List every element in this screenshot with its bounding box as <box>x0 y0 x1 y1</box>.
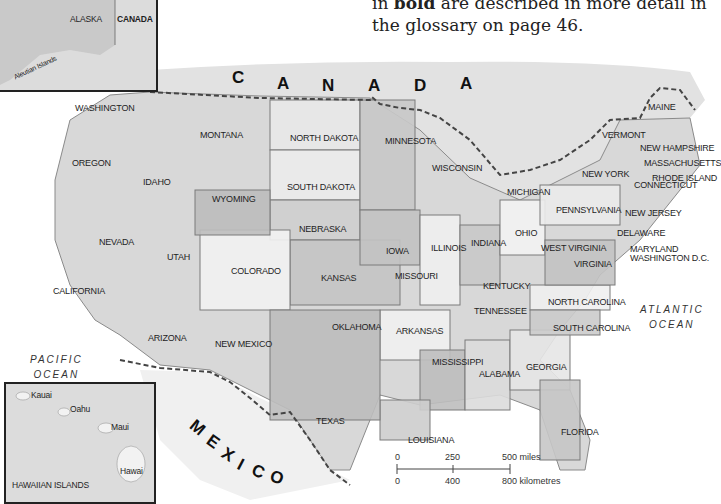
state-label: WASHINGTON <box>75 103 135 113</box>
state-label: MINNESOTA <box>385 136 436 146</box>
ocean-word: PACIFIC <box>30 352 83 367</box>
state-label: OKLAHOMA <box>332 322 381 332</box>
state-label: NEW JERSEY <box>625 208 682 218</box>
state-label: OREGON <box>72 158 111 168</box>
scale-line <box>395 464 515 476</box>
alaska-label: ALASKA <box>70 14 102 24</box>
state-label: FLORIDA <box>561 427 599 437</box>
state-label: TENNESSEE <box>474 306 527 316</box>
island-label-maui: Maui <box>111 422 129 432</box>
state-label: ILLINOIS <box>431 243 466 253</box>
ocean-word: OCEAN <box>640 317 704 332</box>
state-label: NORTH DAKOTA <box>290 133 358 143</box>
state-label: TEXAS <box>316 416 345 426</box>
state-label: SOUTH CAROLINA <box>553 323 630 333</box>
state-label: ARIZONA <box>148 333 187 343</box>
scale-bar: 0 250 500 miles 0 400 800 kilometres <box>395 452 595 492</box>
state-label: MISSOURI <box>395 271 438 281</box>
canada-letter: A <box>368 76 380 96</box>
scale-km-800: 800 kilometres <box>502 476 561 486</box>
state-label: MICHIGAN <box>507 187 550 197</box>
canada-letter: D <box>414 76 426 96</box>
state-label: NEW MEXICO <box>215 339 272 349</box>
state-label: VIRGINIA <box>574 259 612 269</box>
island-label-oahu: Oahu <box>70 404 90 414</box>
scale-miles-250: 250 <box>445 452 460 462</box>
state-label: WYOMING <box>212 194 256 204</box>
state-label: NEVADA <box>99 237 134 247</box>
caption-line2: the glossary on page 46. <box>372 14 712 36</box>
state-label: NORTH CAROLINA <box>548 297 626 307</box>
state-label: INDIANA <box>471 238 506 248</box>
island-label-kauai: Kauai <box>31 390 52 400</box>
ocean-label-pacific: PACIFIC OCEAN <box>30 352 83 382</box>
ocean-label-atlantic: ATLANTIC OCEAN <box>640 302 704 332</box>
caption-text: in bold are described in more detail in … <box>372 0 712 36</box>
state-label: MONTANA <box>200 130 243 140</box>
state-label: WASHINGTON D.C. <box>630 253 709 263</box>
state-label: WISCONSIN <box>432 163 482 173</box>
state-label: WEST VIRGINIA <box>541 243 606 253</box>
state-label: OHIO <box>515 228 537 238</box>
ocean-word: ATLANTIC <box>640 302 704 317</box>
state-label: NEW YORK <box>582 169 629 179</box>
canada-letter: N <box>322 76 334 96</box>
state-label: IOWA <box>386 246 409 256</box>
state-label: CONNECTICUT <box>634 180 697 190</box>
state-label: NEBRASKA <box>299 224 346 234</box>
state-label: MISSISSIPPI <box>432 357 483 367</box>
state-label: MAINE <box>648 102 676 112</box>
scale-miles-0: 0 <box>395 452 400 462</box>
state-label: VERMONT <box>602 130 646 140</box>
island-label-hawaii: Hawai <box>120 466 143 476</box>
ocean-word: OCEAN <box>30 367 83 382</box>
canada-letter: C <box>232 68 244 88</box>
state-label: KENTUCKY <box>483 281 530 291</box>
state-label: GEORGIA <box>526 362 567 372</box>
state-label: KANSAS <box>321 273 356 283</box>
caption-suffix: are described in more detail in <box>435 0 706 13</box>
state-label: UTAH <box>167 252 190 262</box>
state-label: COLORADO <box>231 266 281 276</box>
scale-km-0: 0 <box>395 476 400 486</box>
state-label: ARKANSAS <box>396 326 443 336</box>
state-label: NEW HAMPSHIRE <box>640 143 714 153</box>
state-label: PENNSYLVANIA <box>556 205 621 215</box>
alaska-inset: ALASKA CANADA Aleutian Islands <box>0 0 158 92</box>
hawaii-inset: Kauai Oahu Maui Hawai HAWAIIAN ISLANDS <box>4 382 156 504</box>
state-label: DELAWARE <box>617 228 665 238</box>
state-label: LOUISIANA <box>408 435 454 445</box>
state-label: IDAHO <box>143 177 171 187</box>
state-label: ALABAMA <box>479 369 520 379</box>
state-label: MASSACHUSETTS <box>644 158 721 168</box>
scale-miles-500: 500 miles <box>502 452 541 462</box>
state-label: CALIFORNIA <box>53 286 105 296</box>
caption-prefix: in <box>372 0 394 13</box>
hawaii-inset-title: HAWAIIAN ISLANDS <box>12 480 89 490</box>
scale-km-400: 400 <box>445 476 460 486</box>
canada-letter: A <box>460 74 472 94</box>
canada-inset-label: CANADA <box>117 14 153 24</box>
caption-bold: bold <box>394 0 436 13</box>
canada-letter: A <box>277 74 289 94</box>
state-label: SOUTH DAKOTA <box>287 182 355 192</box>
